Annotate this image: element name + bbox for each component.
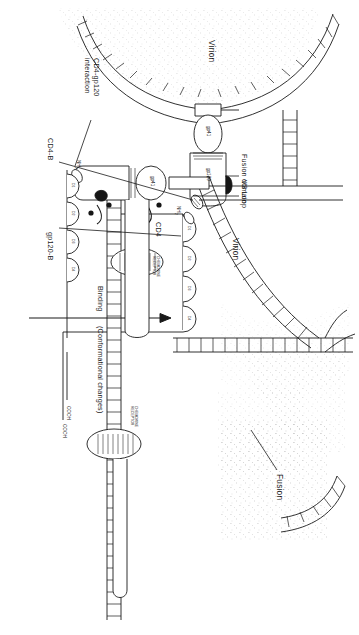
cd4-domain-label: D2	[71, 211, 75, 215]
cd4-domain-label: D3	[187, 286, 191, 290]
virion-label-left: Virion	[207, 40, 218, 62]
nh2-label-right: NH2	[74, 160, 81, 169]
nh2-text: NH	[176, 206, 181, 213]
gp120-label-left: gp120	[205, 168, 211, 181]
virion-membrane-right	[197, 176, 319, 348]
nh2-label-left: NH2	[174, 206, 181, 215]
nh2-text-right: NH	[76, 160, 81, 167]
fused-membrane-fragment	[281, 476, 345, 532]
diagram-landscape-canvas: Virion Virion Fusion domain V3 Loop CD4-…	[0, 0, 359, 635]
virion-interior-stipple-right	[219, 300, 351, 452]
cell-membrane-right	[199, 186, 343, 200]
diagram-artwork	[0, 0, 359, 635]
cd4-label-left: CD4	[154, 222, 163, 237]
cd4-domain-label: D4	[71, 267, 75, 271]
figure-canvas: Virion Virion Fusion domain V3 Loop CD4-…	[0, 0, 359, 635]
leader-lines-left	[59, 162, 239, 236]
gp120-binding-site-label: gp120-B	[46, 232, 55, 261]
nh2-subscript-right: 2	[74, 167, 78, 169]
cd4-domain-label: D4	[187, 316, 191, 320]
chemokine-receptor-label-right: CHEMOKINE RECEPTOR	[152, 256, 159, 269]
cd4-receptor-left	[63, 210, 196, 420]
transition-arrow	[29, 314, 171, 323]
arrow-label-binding: Binding	[96, 286, 105, 311]
cooh-label-right: COOH	[65, 406, 71, 420]
target-cell-membrane-vertical	[173, 338, 353, 352]
virion-label-right: Virion	[231, 238, 242, 260]
chemokine-receptor-left	[87, 429, 141, 598]
membrane-fusion-neck	[325, 310, 355, 352]
gp41-label-left: gp41	[205, 126, 211, 136]
virion-membrane-left	[77, 14, 339, 124]
cd4-binding-site-label: CD4-B	[46, 138, 55, 161]
chemokine-receptor-label-left: CHEMOKINE RECEPTOR	[130, 406, 137, 420]
cd4-domain-label: D1	[187, 226, 191, 230]
fusion-label: Fusion	[275, 474, 286, 500]
conformational-change-dots	[88, 202, 161, 218]
nh2-subscript: 2	[174, 213, 178, 215]
left-panel-binding	[59, 8, 339, 620]
cell-membrane-right-horizontal	[283, 110, 297, 186]
cd4-domain-label: D1	[71, 183, 75, 187]
v3-loop-label: V3 Loop	[240, 180, 249, 208]
cooh-label-left: COOH	[61, 424, 67, 438]
envelope-spike-right	[70, 166, 209, 201]
arrow-label-conformational: (Conformational changes)	[96, 326, 105, 414]
fusion-stipple-burst	[217, 392, 329, 540]
gp41-label-right: gp41	[149, 176, 155, 186]
cd4-domain-label: D2	[187, 256, 191, 260]
envelope-spike-left	[189, 104, 232, 211]
cd4-receptor-right	[67, 170, 79, 400]
cd4-gp120-interaction-label: CD4-gp120 interaction	[83, 58, 101, 132]
cell-membrane-left	[107, 186, 121, 620]
conformational-change-arrows	[97, 205, 152, 224]
right-panel-fusion	[67, 110, 355, 540]
cd4-domain-label: D3	[71, 239, 75, 243]
